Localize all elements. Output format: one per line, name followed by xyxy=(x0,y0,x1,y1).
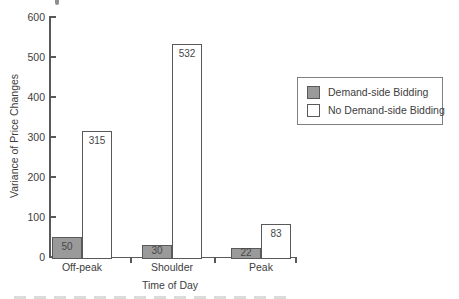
y-tick-label-300: 300 xyxy=(0,131,45,143)
y-tick-label-600: 600 xyxy=(0,11,45,23)
bar-value-label-no-demand-side-bidding-off-peak: 315 xyxy=(82,135,112,147)
y-tick-500 xyxy=(49,56,56,58)
bar-value-label-no-demand-side-bidding-shoulder: 532 xyxy=(172,48,202,60)
legend-swatch-no-demand-side-bidding xyxy=(307,104,320,117)
legend: Demand-side Bidding No Demand-side Biddi… xyxy=(297,77,443,125)
bar-value-label-demand-side-bidding-peak: 22 xyxy=(231,247,261,259)
legend-swatch-demand-side-bidding xyxy=(307,86,320,99)
bar-value-label-demand-side-bidding-off-peak: 50 xyxy=(52,241,82,253)
y-tick-label-100: 100 xyxy=(0,211,45,223)
legend-item-demand-side-bidding: Demand-side Bidding xyxy=(307,86,433,99)
bar-chart-figure: Variance of Price Changes Time of Day 01… xyxy=(0,0,459,299)
y-tick-label-0: 0 xyxy=(0,251,45,263)
y-tick-300 xyxy=(49,136,56,138)
legend-label-no-demand-side-bidding: No Demand-side Bidding xyxy=(328,104,445,117)
legend-item-no-demand-side-bidding: No Demand-side Bidding xyxy=(307,104,433,117)
y-tick-400 xyxy=(49,96,56,98)
y-tick-100 xyxy=(49,216,56,218)
x-axis-title: Time of Day xyxy=(80,279,260,291)
y-tick-600 xyxy=(49,16,56,18)
x-tick-1 xyxy=(214,257,216,263)
category-label-peak: Peak xyxy=(221,261,301,274)
category-label-off-peak: Off-peak xyxy=(42,261,122,274)
bar-no-demand-side-bidding-shoulder xyxy=(172,44,202,259)
y-tick-label-500: 500 xyxy=(0,51,45,63)
y-tick-label-400: 400 xyxy=(0,91,45,103)
bar-no-demand-side-bidding-off-peak xyxy=(82,131,112,259)
legend-label-demand-side-bidding: Demand-side Bidding xyxy=(328,86,428,99)
bar-value-label-demand-side-bidding-shoulder: 30 xyxy=(142,245,172,257)
y-tick-200 xyxy=(49,176,56,178)
cropped-text-artifact-top xyxy=(55,0,59,5)
bar-value-label-no-demand-side-bidding-peak: 83 xyxy=(261,228,291,240)
y-tick-label-200: 200 xyxy=(0,171,45,183)
category-label-shoulder: Shoulder xyxy=(132,261,212,274)
